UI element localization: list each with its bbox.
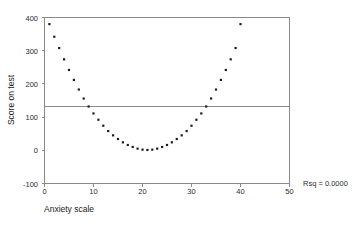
data-point [225,69,227,71]
y-tick-label-300: 300 [25,47,38,56]
data-point-group [48,23,241,151]
data-point [210,97,212,99]
data-point [166,144,168,146]
y-tick-label-200: 200 [25,80,38,89]
x-axis-title: Anxiety scale [44,204,94,214]
data-point [215,88,217,90]
data-point [205,105,207,107]
y-axis-title: Score on test [6,74,16,125]
data-point [102,125,104,127]
data-point [230,58,232,60]
data-point [141,149,143,151]
data-point [88,105,90,107]
data-point [190,125,192,127]
data-point [146,149,148,151]
y-tick-label-400: 400 [25,14,38,23]
data-point [78,88,80,90]
data-point [220,79,222,81]
x-tick-label-50: 50 [285,187,293,196]
data-point [73,79,75,81]
scatterplot-figure: 400 300 200 100 0 -100 0 10 20 30 40 50 [0,0,359,231]
data-point [181,134,183,136]
x-axis-tick-labels: 0 10 20 30 40 50 [42,187,293,196]
y-tick-label-minus100: -100 [23,180,38,189]
data-point [107,130,109,132]
data-point [48,23,50,25]
data-point [127,144,129,146]
data-point [92,112,94,114]
data-point [68,69,70,71]
data-point [97,119,99,121]
data-point [122,141,124,143]
x-tick-label-20: 20 [138,187,146,196]
data-point [63,58,65,60]
data-point [176,138,178,140]
plot-frame [45,18,290,184]
data-point [83,97,85,99]
data-point [239,23,241,25]
y-tick-label-0: 0 [34,146,38,155]
chart-page: 400 300 200 100 0 -100 0 10 20 30 40 50 [0,0,359,231]
data-point [171,141,173,143]
y-axis-tick-labels: 400 300 200 100 0 -100 [23,14,38,189]
x-tick-label-30: 30 [187,187,195,196]
data-point [53,36,55,38]
data-point [137,148,139,150]
data-point [117,138,119,140]
data-point [58,47,60,49]
data-point [156,148,158,150]
x-tick-label-40: 40 [236,187,244,196]
x-tick-label-10: 10 [89,187,97,196]
data-point [186,130,188,132]
data-point [200,112,202,114]
y-tick-label-100: 100 [25,113,38,122]
data-point [195,119,197,121]
rsq-annotation: Rsq = 0.0000 [303,179,348,188]
data-point [161,146,163,148]
data-point [235,47,237,49]
x-tick-label-0: 0 [42,187,46,196]
data-point [132,146,134,148]
data-point [112,134,114,136]
data-point [151,149,153,151]
